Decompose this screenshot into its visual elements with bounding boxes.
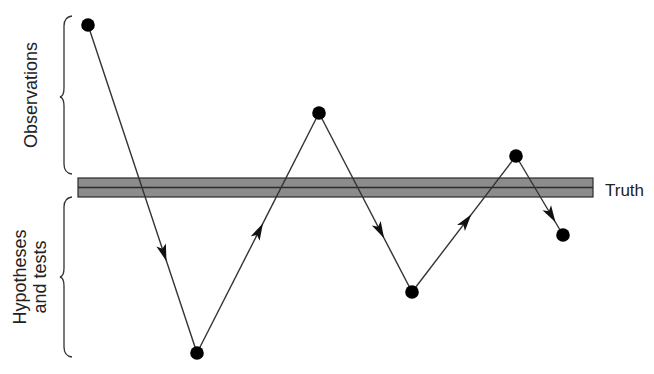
hypotheses-label-line1: Hypotheses: [10, 229, 30, 324]
data-point-p4: [405, 285, 419, 299]
hypotheses-label-line2: and tests: [30, 240, 50, 313]
data-point-p3: [312, 106, 326, 120]
truth-band: [78, 178, 593, 197]
observations-label: Observations: [21, 42, 41, 148]
edge-p3-p4: [319, 113, 412, 292]
arrowhead-icon: [372, 221, 384, 238]
arrowhead-icon: [457, 214, 471, 231]
observations-brace: [60, 16, 72, 174]
data-point-p5: [509, 149, 523, 163]
data-point-p6: [556, 228, 570, 242]
arrowhead-icon: [542, 205, 555, 222]
hypotheses-brace: [60, 197, 72, 357]
truth-label: Truth: [605, 181, 644, 200]
hypothesis-testing-diagram: Truth Observations Hypotheses and tests: [0, 0, 654, 374]
data-point-p2: [190, 346, 204, 360]
data-point-p1: [81, 18, 95, 32]
arrowhead-icon: [251, 223, 263, 240]
